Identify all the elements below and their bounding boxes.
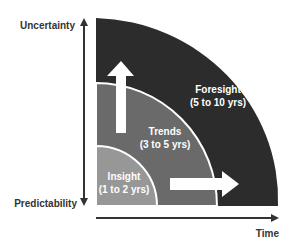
left-edge-mask: [94, 18, 96, 208]
bottom-edge-mask: [94, 206, 280, 209]
trends-title: Trends: [149, 126, 182, 137]
y-axis-top-label: Uncertainty: [20, 20, 75, 31]
foresight-range: (5 to 10 yrs): [190, 97, 246, 108]
axis-arrow-right-icon: [271, 214, 279, 222]
horizon-diagram: Uncertainty Predictability Time Foresigh…: [0, 0, 293, 249]
insight-range: (1 to 2 yrs): [99, 184, 150, 195]
y-axis-bottom-label: Predictability: [14, 198, 77, 209]
axis-arrow-down-icon: [80, 198, 88, 206]
foresight-title: Foresight: [195, 84, 241, 95]
insight-title: Insight: [108, 171, 141, 182]
trends-range: (3 to 5 yrs): [140, 139, 191, 150]
x-axis-label: Time: [256, 228, 280, 239]
axis-arrow-up-icon: [80, 18, 88, 26]
